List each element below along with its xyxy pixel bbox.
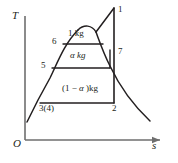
- state-point-7-label: 7: [118, 47, 123, 56]
- ts-diagram-figure: T s O 1 7 2 6 5 3(4) 1 kg α kg (1 − α )k…: [0, 0, 178, 163]
- region-label-top-mass: 1 kg: [68, 29, 84, 38]
- region-label-middle-mass: α kg: [70, 51, 85, 60]
- x-axis-label: s: [152, 140, 156, 151]
- bottom-mass-suffix: )kg: [84, 83, 98, 93]
- state-point-34-label: 3(4): [39, 104, 54, 113]
- y-axis-label: T: [12, 10, 18, 21]
- saturated-vapour-line: [96, 32, 150, 121]
- state-point-2-label: 2: [112, 104, 117, 113]
- state-point-1-label: 1: [118, 5, 123, 14]
- alpha-symbol-middle: α kg: [70, 50, 85, 60]
- bottom-mass-prefix: (1 −: [62, 83, 79, 93]
- state-point-5-label: 5: [41, 61, 46, 70]
- origin-label: O: [13, 138, 21, 149]
- axis-group: [25, 16, 160, 143]
- process-line-6-to-1: [96, 8, 114, 32]
- state-point-6-label: 6: [52, 37, 57, 46]
- region-label-bottom-mass: (1 − α )kg: [62, 84, 98, 93]
